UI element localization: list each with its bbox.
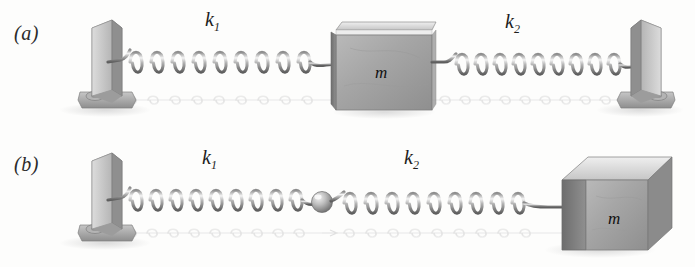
panel-a-label: (a) [14,22,39,45]
spring-constant-k1-b-label: k1 [202,146,217,173]
spring-mass-figure: (a) k1 k2 m (b) k1 k2 m [0,0,695,267]
panel-a: (a) k1 k2 m [0,0,695,133]
spring-constant-k2-a-label: k2 [505,10,520,37]
panel-b-label: (b) [14,153,39,176]
mass-label-b: m [608,209,620,229]
spring-constant-k1-a-label: k1 [205,8,220,35]
panel-b: (b) k1 k2 m [0,133,695,267]
mass-label-a: m [375,63,387,83]
spring-constant-k2-b-label: k2 [404,146,419,173]
